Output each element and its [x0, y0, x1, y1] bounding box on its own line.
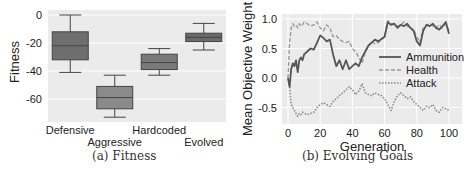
legend-label: Ammunition [406, 51, 464, 63]
x-tick-label: 20 [314, 127, 326, 139]
y-tick-label: -60 [26, 93, 42, 105]
fitness-caption: (a) Fitness [92, 149, 156, 163]
x-tick-label: 80 [411, 127, 423, 139]
x-tick-label: 60 [378, 127, 390, 139]
category-label: Aggressive [88, 136, 142, 148]
y-tick-label: -0.5 [258, 102, 277, 114]
y-tick-label: 0.5 [262, 43, 277, 55]
x-tick-label: 100 [440, 127, 458, 139]
y-axis-label: Mean Objective Weight [240, 2, 255, 137]
evolving-goals-panel: 1.00.50.0-0.5020406080100AmmunitionHealt… [236, 0, 472, 178]
legend-label: Health [406, 64, 438, 76]
x-tick-label: 40 [346, 127, 358, 139]
plot-area [48, 10, 226, 122]
x-tick-label: 0 [285, 127, 291, 139]
evolving-goals-caption: (b) Evolving Goals [302, 149, 413, 163]
y-tick-label: -40 [26, 65, 42, 77]
y-axis-label: Fitness [7, 41, 22, 83]
y-tick-label: -20 [26, 37, 42, 49]
category-label: Defensive [46, 124, 95, 136]
y-tick-label: 0.0 [262, 72, 277, 84]
legend-label: Attack [406, 77, 437, 89]
category-label: Evolved [184, 136, 223, 148]
y-tick-label: 1.0 [262, 13, 277, 25]
category-label: Hardcoded [132, 124, 186, 136]
fitness-panel: 0-20-40-60DefensiveAggressiveHardcodedEv… [0, 0, 236, 178]
y-tick-label: 0 [36, 9, 42, 21]
